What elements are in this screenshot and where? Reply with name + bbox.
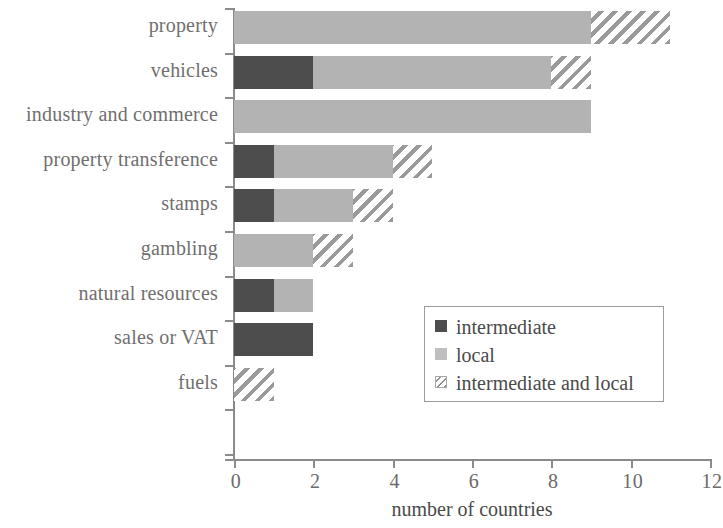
x-tick <box>710 459 712 468</box>
legend-label: intermediate <box>456 316 556 338</box>
bar-segment-intermediate <box>234 56 313 89</box>
bar-segment-local <box>274 279 314 312</box>
y-tick <box>225 320 234 322</box>
y-tick <box>225 53 234 55</box>
x-tick <box>631 459 633 468</box>
category-label-sales-or-vat: sales or VAT <box>0 326 218 349</box>
solid-dark-swatch-icon <box>435 320 447 332</box>
legend-label: local <box>456 344 495 366</box>
bar-segment-intermediate-and-local <box>551 56 591 89</box>
bar-segment-local <box>274 189 353 222</box>
category-label-natural-resources: natural resources <box>0 282 218 305</box>
x-tick-label: 12 <box>692 470 723 493</box>
x-tick-label: 2 <box>295 470 335 493</box>
hatched-swatch-icon <box>435 376 447 388</box>
category-label-industry-and-commerce: industry and commerce <box>0 103 218 126</box>
legend-item-intermediate-and-local: intermediate and local <box>435 369 634 395</box>
x-tick <box>551 459 553 468</box>
category-label-fuels: fuels <box>0 371 218 394</box>
y-tick <box>225 276 234 278</box>
y-tick <box>225 8 234 10</box>
x-tick-label: 0 <box>216 470 256 493</box>
x-tick <box>313 459 315 468</box>
bar-segment-intermediate-and-local <box>393 145 433 178</box>
bar-segment-intermediate <box>234 189 274 222</box>
y-tick <box>225 97 234 99</box>
x-axis-title: number of countries <box>234 498 710 521</box>
category-label-gambling: gambling <box>0 237 218 260</box>
bar-segment-local <box>274 145 393 178</box>
bar-segment-intermediate <box>234 145 274 178</box>
bar-segment-local <box>234 11 591 44</box>
y-tick <box>225 186 234 188</box>
y-tick <box>225 409 234 411</box>
bar-segment-intermediate-and-local <box>234 368 274 401</box>
x-tick-label: 4 <box>375 470 415 493</box>
bar-segment-intermediate-and-local <box>591 11 670 44</box>
category-label-property-transference: property transference <box>0 148 218 171</box>
legend: intermediate local intermediate and loca… <box>424 306 664 402</box>
legend-label: intermediate and local <box>456 372 634 394</box>
solid-light-swatch-icon <box>435 348 447 360</box>
bar-segment-local <box>234 100 591 133</box>
category-label-property: property <box>0 14 218 37</box>
category-label-stamps: stamps <box>0 192 218 215</box>
bar-chart: 024681012 propertyvehiclesindustry and c… <box>0 0 723 528</box>
x-tick-label: 6 <box>454 470 494 493</box>
bar-segment-intermediate <box>234 323 313 356</box>
y-tick <box>225 231 234 233</box>
y-tick <box>225 365 234 367</box>
bar-segment-local <box>313 56 551 89</box>
x-tick-label: 10 <box>613 470 653 493</box>
bar-segment-intermediate <box>234 279 274 312</box>
y-tick <box>225 142 234 144</box>
x-tick <box>234 459 236 468</box>
y-tick <box>225 454 234 456</box>
legend-item-local: local <box>435 341 495 367</box>
legend-item-intermediate: intermediate <box>435 313 556 339</box>
bar-segment-intermediate-and-local <box>353 189 393 222</box>
x-tick-label: 8 <box>533 470 573 493</box>
x-tick <box>393 459 395 468</box>
x-tick <box>472 459 474 468</box>
bar-segment-local <box>234 234 313 267</box>
bar-segment-intermediate-and-local <box>313 234 353 267</box>
category-label-vehicles: vehicles <box>0 59 218 82</box>
